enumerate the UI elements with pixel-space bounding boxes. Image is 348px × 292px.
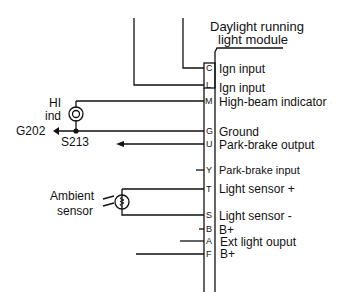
wire-sensor-loop (122, 189, 204, 215)
pin-letter: U (206, 140, 213, 149)
pin-function-label: Park-brake output (219, 139, 314, 151)
pin-function-label: Ign input (219, 63, 265, 75)
splice-label: S213 (61, 136, 89, 148)
sensor-leader-1 (103, 196, 114, 199)
pin-letter: F (206, 250, 212, 259)
pin-letter: Y (206, 166, 212, 175)
ground-label: G202 (16, 125, 45, 137)
pin-letter: M (205, 97, 213, 106)
sensor-leader-2 (103, 203, 114, 206)
pin-function-label: Light sensor - (219, 210, 292, 222)
pin-function-label: Ign input (219, 82, 265, 94)
pin-letter: B (206, 225, 212, 234)
wire-c (183, 18, 204, 68)
dot-icon (73, 128, 78, 133)
pin-letter: S (206, 211, 212, 220)
pin-letter: L (206, 81, 211, 90)
pin-letter: A (206, 237, 212, 246)
pin-function-label: Park-brake input (219, 165, 300, 176)
module-title-line2: light module (218, 33, 288, 46)
wire-l (134, 18, 204, 85)
pin-function-label: Light sensor + (219, 183, 295, 195)
pin-function-label: B+ (220, 248, 235, 260)
hi-indicator-label-2: ind (45, 110, 61, 122)
pin-function-label: Ground (219, 126, 259, 138)
pin-letter: G (206, 127, 213, 136)
pin-letter: T (206, 185, 212, 194)
hi-indicator-label-1: HI (49, 97, 61, 109)
thermistor-circle-icon (115, 195, 129, 209)
pin-function-label: High-beam indicator (219, 96, 326, 108)
sensor-label-2: sensor (57, 205, 93, 217)
lamp-circle-icon (69, 107, 83, 121)
arrow-left-icon (53, 127, 59, 135)
sensor-label-1: Ambient (50, 190, 94, 202)
arrow-left-icon (116, 141, 124, 147)
pin-letter: C (206, 64, 213, 73)
